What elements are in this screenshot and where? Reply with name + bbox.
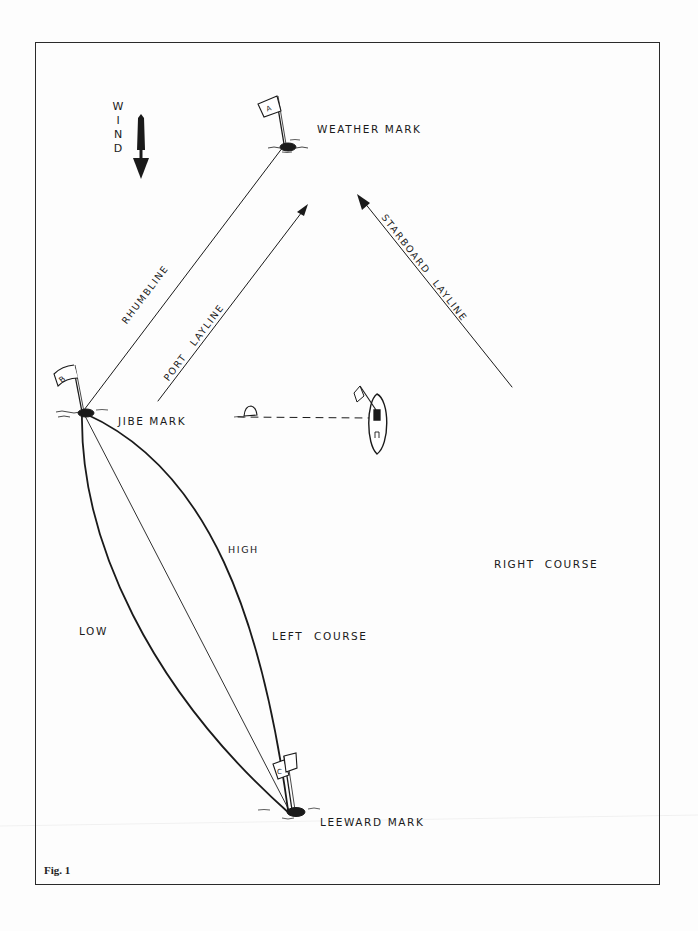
weather-mark-label: WEATHER MARK [317,123,422,135]
boat-flag-icon [354,386,364,402]
course-diagram: A B [0,0,698,931]
committee-boat-icon [354,386,387,454]
high-course-curve [86,414,288,810]
dashed-sight-line [238,417,370,418]
weather-mark-buoy: A [258,96,308,153]
wind-arrow-icon [133,114,149,179]
wind-label-d: D [112,142,124,155]
figure-page: A B [0,0,698,931]
wind-label-i: I [112,114,124,127]
small-buoy [234,406,257,417]
leeward-mark-buoy: C [258,753,320,819]
left-course-label: LEFT COURSE [272,630,368,642]
right-course-label: RIGHT COURSE [494,558,598,570]
flag-b-icon [54,365,78,386]
high-label: HIGH [228,544,259,555]
low-course-curve [82,414,290,814]
port-layline-arrow [158,204,308,401]
rhumbline-line [84,147,283,410]
jibe-mark-buoy: B [54,365,108,417]
wind-label-n: N [112,128,124,141]
direct-leg-line [84,414,290,812]
leeward-mark-label: LEEWARD MARK [320,816,424,828]
svg-text:C: C [277,768,282,776]
figure-caption: Fig. 1 [44,864,70,876]
wind-label-w: W [112,100,124,113]
arrowhead-icon [297,204,308,216]
jibe-mark-label: JIBE MARK [118,415,186,427]
low-label: LOW [79,625,108,637]
